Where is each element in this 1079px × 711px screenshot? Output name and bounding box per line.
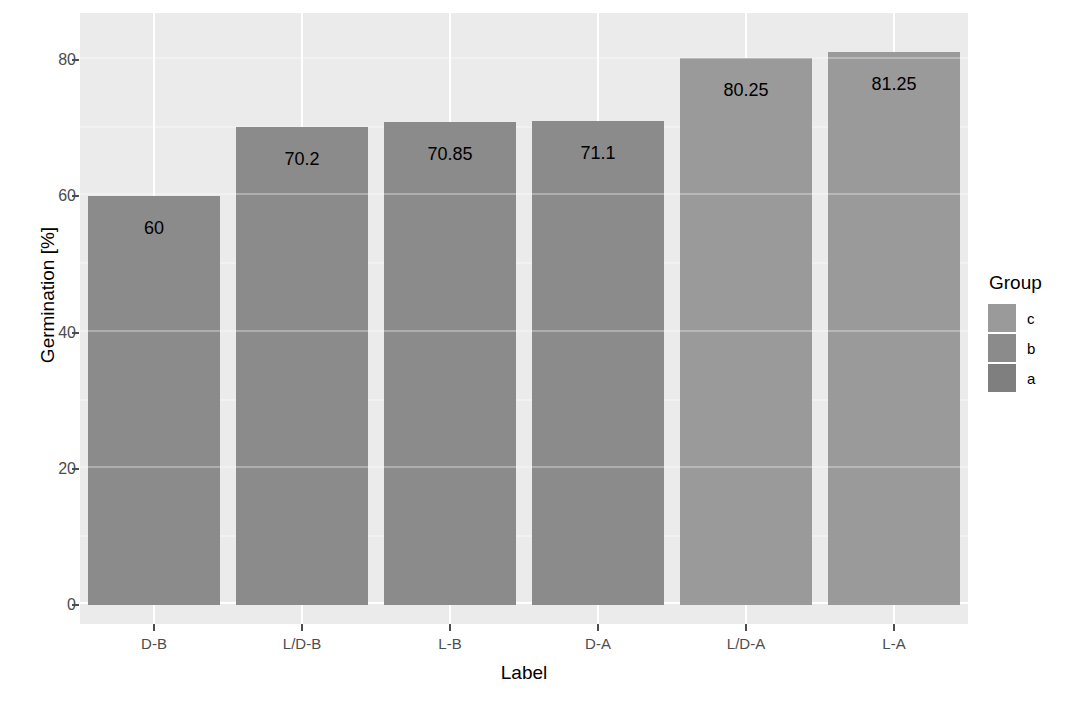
bar-value-label: 60 bbox=[88, 218, 220, 239]
y-tick-label: 40 bbox=[30, 324, 76, 342]
bar[interactable] bbox=[88, 196, 220, 605]
x-tick-label: L-A bbox=[882, 635, 905, 652]
y-tick-mark bbox=[72, 195, 79, 197]
bar-value-label: 71.1 bbox=[532, 143, 664, 164]
legend-item[interactable]: c bbox=[988, 303, 1042, 333]
x-tick-mark bbox=[597, 624, 599, 631]
x-axis-title: Label bbox=[80, 662, 968, 684]
y-tick-mark bbox=[72, 468, 79, 470]
x-tick-mark bbox=[893, 624, 895, 631]
legend-title: Group bbox=[989, 272, 1042, 294]
gridline-major-overlay bbox=[80, 466, 968, 468]
legend-item[interactable]: a bbox=[988, 363, 1042, 393]
bar-value-label: 70.85 bbox=[384, 144, 516, 165]
x-tick-mark bbox=[745, 624, 747, 631]
bar-value-label: 81.25 bbox=[828, 74, 960, 95]
legend-swatch bbox=[988, 304, 1016, 332]
gridline-major-overlay bbox=[80, 330, 968, 332]
bar-chart: Germination [%] 806040200 6070.270.8571.… bbox=[0, 0, 1079, 711]
legend-item-label: b bbox=[1027, 340, 1035, 357]
x-tick-label: D-B bbox=[141, 635, 167, 652]
legend-items: cba bbox=[988, 303, 1042, 393]
bar-value-label: 80.25 bbox=[680, 80, 812, 101]
x-tick-mark bbox=[153, 624, 155, 631]
y-tick-label: 60 bbox=[30, 187, 76, 205]
legend-swatch bbox=[988, 334, 1016, 362]
legend: Group cba bbox=[988, 272, 1042, 393]
y-tick-mark bbox=[72, 332, 79, 334]
y-axis-ticks: 806040200 bbox=[20, 0, 76, 711]
bar[interactable] bbox=[828, 52, 960, 605]
plot-panel: 6070.270.8571.180.2581.25 bbox=[80, 13, 968, 624]
x-tick-label: L-B bbox=[438, 635, 461, 652]
legend-swatch bbox=[988, 364, 1016, 392]
y-tick-label: 80 bbox=[30, 51, 76, 69]
bar[interactable] bbox=[680, 58, 812, 605]
bar-value-label: 70.2 bbox=[236, 149, 368, 170]
y-tick-mark bbox=[72, 604, 79, 606]
legend-item[interactable]: b bbox=[988, 333, 1042, 363]
x-tick-mark bbox=[301, 624, 303, 631]
y-tick-label: 0 bbox=[30, 596, 76, 614]
legend-item-label: a bbox=[1027, 370, 1035, 387]
x-tick-mark bbox=[449, 624, 451, 631]
x-tick-label: L/D-B bbox=[283, 635, 321, 652]
gridline-major-overlay bbox=[80, 193, 968, 195]
legend-item-label: c bbox=[1027, 310, 1035, 327]
gridline-major-overlay bbox=[80, 57, 968, 59]
bar[interactable] bbox=[236, 127, 368, 605]
x-axis-ticks: D-BL/D-BL-BD-AL/D-AL-A bbox=[80, 624, 968, 660]
x-tick-label: L/D-A bbox=[727, 635, 765, 652]
y-tick-mark bbox=[72, 59, 79, 61]
y-tick-label: 20 bbox=[30, 460, 76, 478]
x-tick-label: D-A bbox=[585, 635, 611, 652]
